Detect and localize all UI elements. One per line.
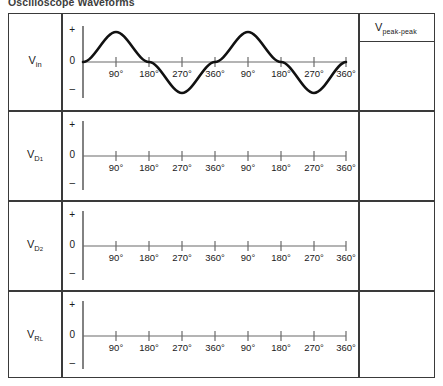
tick-label: 180°	[133, 342, 165, 353]
tick-label: 90°	[234, 252, 262, 263]
tick-label: 180°	[265, 252, 297, 263]
axis-marker-plus: +	[61, 299, 75, 310]
axis-marker-zero: 0	[61, 329, 75, 340]
tick-labels-vrl: 90° 180° 270° 360° 90° 180° 270° 360°	[61, 342, 358, 356]
tick-labels-vin: 90° 180° 270° 360° 90° 180° 270° 360°	[61, 68, 358, 82]
tick-labels-vd2: 90° 180° 270° 360° 90° 180° 270° 360°	[61, 252, 358, 266]
axis-marker-minus: –	[61, 83, 75, 94]
tick-label: 270°	[298, 162, 330, 173]
result-cell-vd1[interactable]	[358, 111, 434, 200]
tick-label: 360°	[199, 162, 231, 173]
axis-marker-plus: +	[61, 209, 75, 220]
table-row: VRL + 0 –	[9, 291, 434, 379]
tick-label: 90°	[102, 68, 130, 79]
tick-label: 270°	[166, 252, 198, 263]
waveform-svg-vd2	[61, 201, 358, 290]
tick-label: 90°	[234, 68, 262, 79]
axis-marker-zero: 0	[61, 55, 75, 66]
waveform-svg-vin	[61, 14, 358, 110]
waveform-plot-vd2: + 0 – 90° 180° 2	[61, 201, 358, 290]
axis-marker-plus: +	[61, 119, 75, 130]
axis-marker-minus: –	[61, 357, 75, 368]
table-row: VD1 + 0 –	[9, 111, 434, 200]
tick-label: 360°	[199, 342, 231, 353]
tick-label: 180°	[133, 252, 165, 263]
tick-label: 270°	[166, 68, 198, 79]
waveform-plot-vd1: + 0 – 90° 180° 2	[61, 111, 358, 200]
tick-label: 270°	[166, 342, 198, 353]
axis-marker-plus: +	[61, 24, 75, 35]
waveform-plot-vin: + 0 –	[61, 14, 358, 110]
tick-label: 90°	[234, 162, 262, 173]
row-label-subsubscript: 1	[40, 156, 43, 162]
tick-label: 360°	[199, 68, 231, 79]
tick-label: 180°	[133, 68, 165, 79]
result-cell-vrl[interactable]	[358, 291, 434, 379]
page-title: Oscilloscope Waveforms	[8, 0, 135, 8]
waveform-svg-vrl	[61, 291, 358, 379]
tick-label: 180°	[265, 162, 297, 173]
tick-label: 90°	[102, 162, 130, 173]
tick-label: 180°	[265, 68, 297, 79]
row-label-symbol: V	[28, 54, 35, 66]
tick-label: 270°	[298, 252, 330, 263]
row-label-vd2: VD2	[9, 238, 61, 253]
waveform-plot-vrl: + 0 – 90° 180° 2	[61, 291, 358, 379]
axis-marker-zero: 0	[61, 149, 75, 160]
table-row: Vin + 0 –	[9, 14, 434, 110]
axis-marker-minus: –	[61, 267, 75, 278]
tick-label: 90°	[102, 342, 130, 353]
result-cell-vin[interactable]	[358, 41, 434, 110]
tick-label: 90°	[234, 342, 262, 353]
row-label-vrl: VRL	[9, 328, 61, 343]
tick-label: 180°	[133, 162, 165, 173]
result-cell-vd2[interactable]	[358, 201, 434, 290]
row-label-subsubscript: 2	[40, 246, 43, 252]
tick-label: 270°	[298, 342, 330, 353]
waveform-table: Vpeak-peak Vin + 0 –	[8, 13, 435, 378]
tick-label: 270°	[166, 162, 198, 173]
row-label-subscript: in	[36, 60, 42, 69]
row-label-subsubscript: L	[40, 336, 43, 342]
tick-label: 360°	[199, 252, 231, 263]
row-label-vin: Vin	[9, 54, 61, 69]
axis-marker-minus: –	[61, 177, 75, 188]
tick-label: 180°	[265, 342, 297, 353]
tick-label: 90°	[102, 252, 130, 263]
tick-labels-vd1: 90° 180° 270° 360° 90° 180° 270° 360°	[61, 162, 358, 176]
tick-label: 270°	[298, 68, 330, 79]
table-row: VD2 + 0 –	[9, 201, 434, 290]
axis-marker-zero: 0	[61, 239, 75, 250]
waveform-svg-vd1	[61, 111, 358, 200]
row-label-vd1: VD1	[9, 148, 61, 163]
